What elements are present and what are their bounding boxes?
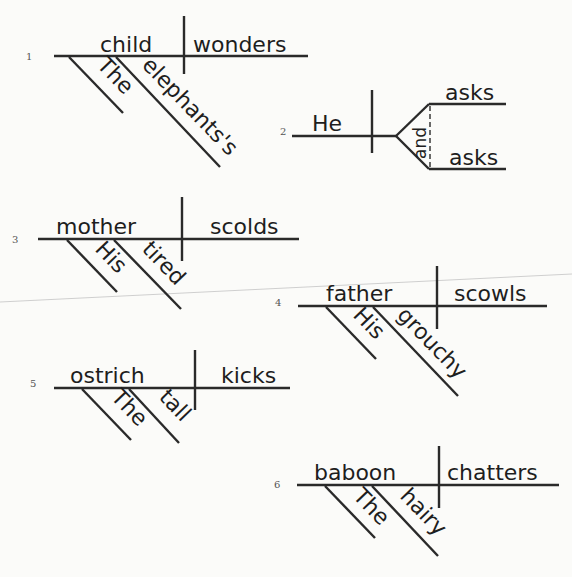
diagram-number: 2 — [280, 126, 286, 137]
predicate-word: scowls — [454, 281, 527, 306]
subject-word: He — [312, 111, 342, 136]
diagram-number: 1 — [26, 51, 32, 62]
subject-word: father — [326, 281, 393, 306]
conjunction-word: and — [410, 127, 430, 159]
modifier-word: tall — [154, 384, 196, 426]
subject-word: mother — [56, 214, 137, 239]
modifier-word: The — [348, 482, 395, 530]
predicate-word: kicks — [221, 363, 276, 388]
diagram-3: 3 mother scolds His tired — [12, 197, 299, 309]
subject-word: ostrich — [70, 363, 145, 388]
modifier-word: grouchy — [392, 302, 472, 383]
predicate-word: chatters — [447, 460, 538, 485]
subject-word: baboon — [314, 460, 396, 485]
predicate-word: asks — [445, 80, 494, 105]
diagram-5: 5 ostrich kicks The tall — [30, 350, 290, 443]
diagram-2: 2 He and asks asks — [280, 80, 506, 170]
diagram-4: 4 father scowls His grouchy — [275, 266, 547, 396]
diagram-number: 6 — [274, 479, 280, 490]
sentence-diagrams-canvas: 1 child wonders The elephants's 2 He and… — [0, 0, 572, 577]
diagram-number: 4 — [275, 297, 281, 308]
diagram-1: 1 child wonders The elephants's — [26, 16, 308, 167]
diagram-number: 5 — [30, 378, 36, 389]
modifier-word: hairy — [395, 483, 452, 540]
diagram-number: 3 — [12, 234, 18, 245]
predicate-word: scolds — [210, 214, 279, 239]
modifier-word: elephants's — [137, 52, 243, 160]
diagram-6: 6 baboon chatters The hairy — [274, 446, 559, 556]
predicate-word: asks — [449, 145, 498, 170]
predicate-word: wonders — [193, 32, 286, 57]
